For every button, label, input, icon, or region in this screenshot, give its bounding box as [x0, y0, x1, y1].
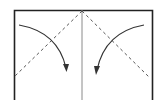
- paper-outline: [15, 11, 153, 101]
- fold-diagram: [0, 0, 154, 100]
- left-valley-fold-line: [14, 11, 82, 77]
- left-fold-arrow-icon: [19, 25, 66, 68]
- right-fold-arrow-icon: [97, 25, 144, 70]
- right-arrowhead-icon: [94, 66, 100, 75]
- right-valley-fold-line: [82, 11, 150, 78]
- left-arrowhead-icon: [63, 64, 69, 72]
